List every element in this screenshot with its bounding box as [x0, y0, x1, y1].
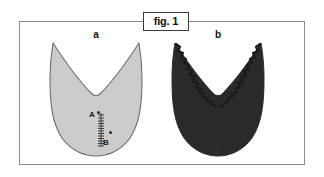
figure-panel-a: a A B — [36, 27, 156, 159]
figure-caption-label: fig. 1 — [154, 16, 178, 27]
measure-point-b-label: B — [103, 139, 109, 147]
panel-b-shape — [158, 27, 278, 159]
figure-caption-badge: fig. 1 — [143, 12, 189, 31]
figure-panel-b: b — [158, 27, 278, 159]
figure-root: fig. 1 a — [0, 0, 324, 177]
measure-point-a-label: A — [89, 111, 95, 119]
panel-a-measure-ladder — [36, 27, 156, 159]
measure-point-b-dot — [109, 131, 112, 134]
measure-point-a-dot — [97, 111, 100, 114]
